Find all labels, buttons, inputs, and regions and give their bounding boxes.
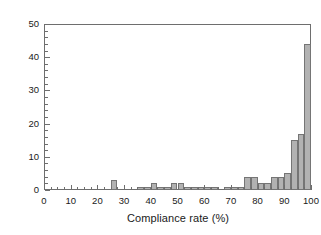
axis-tick	[278, 187, 279, 190]
axis-tick	[231, 185, 232, 190]
axis-tick	[204, 185, 205, 190]
axis-tick	[45, 77, 48, 78]
axis-tick	[117, 187, 118, 190]
axis-tick	[84, 187, 85, 190]
axis-tick	[251, 187, 252, 190]
x-tick-label: 0	[32, 195, 56, 206]
histogram-bar	[144, 187, 151, 190]
axis-tick	[191, 187, 192, 190]
axis-tick	[45, 163, 48, 164]
axis-tick	[304, 187, 305, 190]
axis-tick	[45, 157, 50, 158]
axis-tick	[238, 187, 239, 190]
y-axis-title: Number of patients	[2, 0, 16, 36]
axis-tick	[111, 187, 112, 190]
axis-tick	[291, 187, 292, 190]
axis-tick	[151, 185, 152, 190]
axis-tick	[45, 130, 48, 131]
histogram-bar	[298, 134, 305, 190]
axis-tick	[264, 187, 265, 190]
axis-tick	[164, 187, 165, 190]
axis-tick	[45, 64, 48, 65]
axis-tick	[218, 187, 219, 190]
axis-tick	[144, 187, 145, 190]
x-axis-title: Compliance rate (%)	[44, 212, 312, 224]
plot-area	[44, 24, 311, 190]
axis-tick	[45, 104, 48, 105]
axis-tick	[57, 187, 58, 190]
axis-tick	[45, 51, 48, 52]
y-tick-label: 40	[17, 51, 39, 62]
x-tick-label: 10	[59, 195, 83, 206]
axis-tick	[45, 110, 48, 111]
x-tick-label: 100	[299, 195, 321, 206]
axis-tick	[45, 144, 48, 145]
axis-tick	[45, 90, 50, 91]
axis-tick	[51, 187, 52, 190]
axis-tick	[184, 187, 185, 190]
x-tick-label: 60	[192, 195, 216, 206]
axis-tick	[45, 37, 48, 38]
y-tick-label: 50	[17, 18, 39, 29]
axis-tick	[45, 117, 48, 118]
axis-tick	[178, 185, 179, 190]
axis-tick	[224, 187, 225, 190]
axis-tick	[198, 187, 199, 190]
axis-tick	[104, 187, 105, 190]
x-tick-label: 50	[166, 195, 190, 206]
axis-tick	[45, 97, 48, 98]
axis-tick	[45, 57, 50, 58]
axis-tick	[45, 177, 48, 178]
axis-tick	[171, 187, 172, 190]
x-tick-label: 30	[112, 195, 136, 206]
y-tick-label: 20	[17, 118, 39, 129]
histogram-bar	[204, 187, 211, 190]
axis-tick	[64, 187, 65, 190]
axis-tick	[45, 70, 48, 71]
axis-tick	[45, 183, 48, 184]
histogram-figure: Number of patients Compliance rate (%) 0…	[0, 0, 321, 235]
axis-tick	[45, 150, 48, 151]
histogram-bar	[264, 183, 271, 190]
axis-tick	[137, 187, 138, 190]
axis-tick	[71, 185, 72, 190]
x-tick-label: 80	[246, 195, 270, 206]
axis-tick	[45, 24, 50, 25]
axis-tick	[91, 187, 92, 190]
axis-tick	[284, 185, 285, 190]
histogram-bar	[244, 177, 251, 190]
axis-tick	[298, 187, 299, 190]
histogram-bar	[291, 140, 298, 190]
axis-tick	[244, 187, 245, 190]
axis-tick	[131, 187, 132, 190]
histogram-bar	[284, 173, 291, 190]
axis-tick	[271, 187, 272, 190]
histogram-bar	[164, 187, 171, 190]
axis-tick	[45, 170, 48, 171]
axis-tick	[211, 187, 212, 190]
x-tick-label: 40	[139, 195, 163, 206]
axis-tick	[45, 190, 50, 191]
x-tick-label: 70	[219, 195, 243, 206]
x-tick-label: 90	[272, 195, 296, 206]
y-tick-label: 0	[17, 184, 39, 195]
axis-tick	[45, 124, 50, 125]
histogram-bar	[184, 187, 191, 190]
axis-tick	[311, 185, 312, 190]
axis-tick	[124, 185, 125, 190]
axis-tick	[45, 44, 48, 45]
y-tick-label: 30	[17, 84, 39, 95]
axis-tick	[258, 185, 259, 190]
axis-tick	[45, 84, 48, 85]
axis-tick	[45, 137, 48, 138]
axis-tick	[45, 31, 48, 32]
histogram-bar	[304, 44, 311, 190]
histogram-bar	[224, 187, 231, 190]
axis-tick	[157, 187, 158, 190]
x-tick-label: 20	[85, 195, 109, 206]
axis-tick	[77, 187, 78, 190]
axis-tick	[97, 185, 98, 190]
y-tick-label: 10	[17, 151, 39, 162]
